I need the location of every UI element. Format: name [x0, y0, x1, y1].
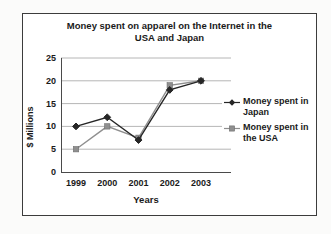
y-tick-label: 25	[46, 53, 56, 63]
legend-item: Money spent in Japan	[222, 96, 316, 117]
legend-item: Money spent in the USA	[222, 122, 316, 143]
y-tick-label: 0	[51, 167, 56, 177]
series-line	[76, 81, 201, 140]
diamond-marker	[73, 123, 80, 130]
x-tick-label: 1999	[66, 178, 86, 188]
diamond-legend-marker-icon	[224, 98, 240, 107]
x-axis-title: Years	[61, 194, 231, 205]
chart-frame: Money spent on apparel on the Internet i…	[22, 13, 317, 216]
y-tick-label: 20	[46, 76, 56, 86]
x-tick-label: 2003	[191, 178, 211, 188]
y-tick-label: 10	[46, 121, 56, 131]
x-tick-label: 2000	[97, 178, 117, 188]
square-marker	[73, 147, 78, 152]
chart-image: { "colors": { "frame_border": "#3c3c3c",…	[0, 0, 331, 234]
legend-label: Money spent in the USA	[243, 122, 315, 143]
legend-label: Money spent in Japan	[243, 96, 315, 117]
x-tick-label: 2002	[160, 178, 180, 188]
y-tick-label: 5	[51, 144, 56, 154]
x-tick-label: 2001	[128, 178, 148, 188]
legend: Money spent in JapanMoney spent in the U…	[222, 94, 316, 146]
square-marker	[105, 124, 110, 129]
y-tick-label: 15	[46, 99, 56, 109]
square-legend-marker-icon	[224, 124, 240, 133]
